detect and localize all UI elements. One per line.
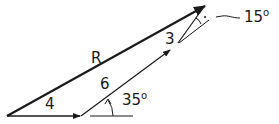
label-6: 6 bbox=[100, 77, 110, 92]
resultant-arrow bbox=[7, 6, 205, 116]
label-4: 4 bbox=[45, 97, 55, 112]
vector-6-extension-line bbox=[179, 20, 209, 43]
label-r: R bbox=[91, 51, 101, 66]
label-3: 3 bbox=[165, 32, 175, 47]
degree-symbol: o bbox=[141, 90, 147, 101]
angle-15-dot bbox=[204, 16, 206, 18]
label-angle-15: 15o bbox=[244, 10, 269, 25]
angle-35-arrowhead bbox=[105, 99, 111, 104]
label-angle-35: 35o bbox=[122, 93, 147, 108]
angle-35-value: 35 bbox=[122, 91, 141, 109]
angle-15-value: 15 bbox=[244, 8, 263, 26]
angle-15-arc bbox=[196, 18, 201, 24]
angle-15-leader bbox=[216, 16, 240, 18]
vector-diagram: R 4 6 3 35o 15o bbox=[0, 0, 279, 124]
degree-symbol: o bbox=[263, 7, 269, 18]
